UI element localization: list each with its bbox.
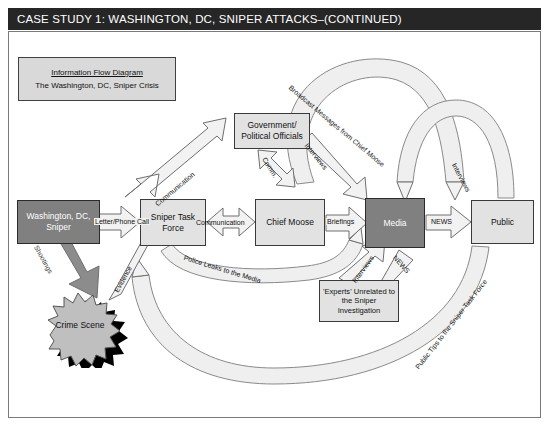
screenshot-root: CASE STUDY 1: WASHINGTON, DC, SNIPER ATT… (0, 0, 549, 426)
edge-label-communication-moose: Communication (196, 219, 245, 226)
edge-label-briefings: Briefings (326, 218, 355, 225)
page-title: CASE STUDY 1: WASHINGTON, DC, SNIPER ATT… (17, 13, 402, 25)
legend-title: Information Flow Diagram (51, 68, 143, 77)
crime-scene-label: Crime Scene (38, 320, 122, 330)
legend-subtitle: The Washington, DC, Sniper Crisis (35, 81, 159, 90)
node-crime-scene[interactable]: Crime Scene (38, 290, 128, 368)
node-government-political-officials[interactable]: Government/ Political Officials (234, 113, 310, 149)
node-public[interactable]: Public (471, 200, 534, 244)
node-experts-unrelated[interactable]: 'Experts' Unrelated to the Sniper Invest… (319, 280, 399, 322)
node-washington-dc-sniper[interactable]: Washington, DC, Sniper (17, 200, 100, 244)
node-media[interactable]: Media (365, 198, 425, 248)
edge-broadcast-messages (287, 59, 464, 200)
legend-box: Information Flow Diagram The Washington,… (18, 57, 176, 101)
diagram-canvas: .flow { fill:#f2f2f2; stroke:#6e6e6e; st… (8, 31, 541, 418)
edge-label-letter-phone-call: Letter/Phone Call (94, 218, 150, 225)
edge-label-news-public: NEWS (430, 218, 453, 225)
page-header: CASE STUDY 1: WASHINGTON, DC, SNIPER ATT… (8, 8, 541, 30)
node-chief-moose[interactable]: Chief Moose (255, 199, 325, 246)
